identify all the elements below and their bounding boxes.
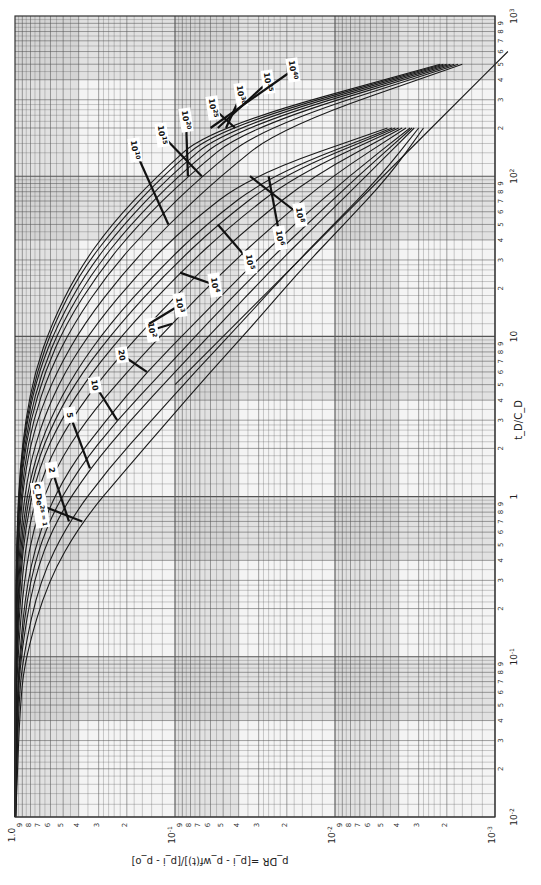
x-decade-label: 10 [509, 330, 519, 342]
svg-text:2: 2 [281, 823, 289, 827]
svg-text:5: 5 [217, 823, 225, 827]
y-decade-label: 10-3 [486, 826, 497, 844]
svg-text:4: 4 [233, 822, 241, 827]
svg-text:6: 6 [497, 49, 505, 54]
x-decade-label: 10-2 [508, 808, 519, 826]
svg-text:6: 6 [497, 369, 505, 374]
type-curve-chart: C_De2s = 1251020102103104105106108101010… [0, 0, 541, 885]
svg-text:7: 7 [194, 823, 202, 827]
svg-text:5: 5 [497, 703, 505, 707]
svg-text:3: 3 [413, 823, 421, 827]
svg-text:2: 2 [497, 606, 505, 610]
svg-text:2: 2 [497, 286, 505, 290]
svg-text:6: 6 [497, 690, 505, 695]
svg-text:4: 4 [497, 77, 505, 82]
svg-text:7: 7 [497, 199, 505, 203]
y-decade-label: 10-2 [326, 826, 337, 844]
svg-text:10: 10 [90, 379, 101, 392]
svg-text:5: 5 [497, 382, 505, 386]
svg-text:4: 4 [73, 822, 81, 827]
svg-text:9: 9 [176, 823, 184, 827]
svg-text:9: 9 [16, 823, 24, 827]
x-decade-label: 1 [509, 494, 519, 500]
svg-text:5: 5 [377, 823, 385, 827]
svg-text:2: 2 [121, 823, 129, 827]
svg-text:3: 3 [497, 578, 505, 582]
svg-text:7: 7 [354, 823, 362, 827]
svg-text:3: 3 [497, 98, 505, 102]
svg-text:5: 5 [497, 222, 505, 226]
svg-text:8: 8 [25, 823, 33, 827]
svg-text:8: 8 [497, 670, 505, 674]
x-decade-label: 102 [508, 168, 519, 183]
svg-text:3: 3 [497, 738, 505, 742]
svg-text:4: 4 [497, 718, 505, 723]
svg-text:3: 3 [253, 823, 261, 827]
svg-text:7: 7 [497, 679, 505, 683]
svg-text:9: 9 [336, 823, 344, 827]
svg-text:9: 9 [497, 181, 505, 185]
svg-text:9: 9 [497, 341, 505, 345]
svg-text:8: 8 [345, 823, 353, 827]
svg-text:4: 4 [393, 822, 401, 827]
svg-text:4: 4 [497, 397, 505, 402]
svg-text:2: 2 [497, 126, 505, 130]
svg-text:2: 2 [497, 767, 505, 771]
y-decade-label: 10-1 [166, 826, 177, 844]
svg-text:4: 4 [497, 237, 505, 242]
svg-text:5: 5 [497, 62, 505, 66]
svg-text:2: 2 [441, 823, 449, 827]
svg-text:7: 7 [497, 519, 505, 523]
x-decade-label: 103 [508, 8, 519, 23]
svg-text:7: 7 [497, 39, 505, 43]
svg-text:2: 2 [497, 446, 505, 450]
svg-text:9: 9 [497, 502, 505, 506]
svg-text:4: 4 [497, 558, 505, 563]
svg-text:5: 5 [57, 823, 65, 827]
svg-text:9: 9 [497, 21, 505, 25]
svg-text:7: 7 [34, 823, 42, 827]
svg-text:6: 6 [364, 822, 372, 827]
svg-text:8: 8 [497, 29, 505, 33]
y-axis-title: p_DR =[p_i - p_wf(t)]/[p_i - p_o] [131, 855, 288, 867]
svg-text:8: 8 [497, 189, 505, 193]
svg-text:3: 3 [497, 258, 505, 262]
svg-text:5: 5 [497, 543, 505, 547]
svg-text:20: 20 [117, 349, 128, 362]
svg-text:6: 6 [497, 209, 505, 214]
y-decade-label: 1.0 [7, 828, 17, 843]
svg-text:3: 3 [93, 823, 101, 827]
svg-text:8: 8 [185, 823, 193, 827]
x-axis-title: t_D/C_D [513, 400, 525, 440]
svg-text:6: 6 [497, 529, 505, 534]
svg-text:9: 9 [497, 662, 505, 666]
svg-text:6: 6 [204, 822, 212, 827]
svg-text:8: 8 [497, 350, 505, 354]
svg-text:7: 7 [497, 359, 505, 363]
svg-text:6: 6 [44, 822, 52, 827]
svg-text:8: 8 [497, 510, 505, 514]
svg-text:3: 3 [497, 418, 505, 422]
x-decade-label: 10-1 [508, 648, 519, 666]
